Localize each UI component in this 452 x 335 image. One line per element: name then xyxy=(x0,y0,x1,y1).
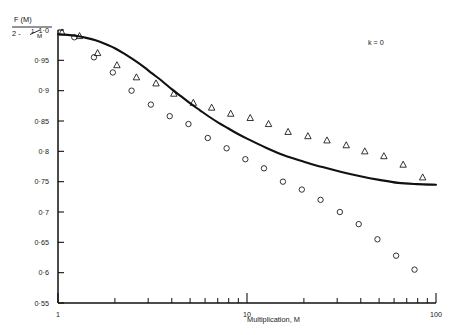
circle-marker xyxy=(318,197,323,202)
circle-marker xyxy=(167,113,172,118)
circle-marker xyxy=(280,179,285,184)
y-tick-label: 0·65 xyxy=(35,238,49,247)
triangle-marker xyxy=(381,153,387,159)
y-tick-label: 0·75 xyxy=(35,177,49,186)
x-tick-label: 100 xyxy=(430,310,442,319)
circle-marker xyxy=(224,146,229,151)
y-tick-label: 0·95 xyxy=(35,56,49,65)
chart-svg: 0·550·60·650·70·750·80·850·90·951·0 1101… xyxy=(0,0,452,335)
triangle-marker xyxy=(208,104,214,110)
x-axis-title: Multiplication, M xyxy=(247,315,300,324)
triangle-marker xyxy=(114,62,120,68)
triangle-marker xyxy=(362,148,368,154)
triangle-marker xyxy=(227,110,233,116)
circle-marker xyxy=(129,88,134,93)
y-axis-label-numerator: F (M) xyxy=(14,15,32,24)
theoretical-curve xyxy=(58,34,436,184)
circle-marker xyxy=(243,157,248,162)
y-axis-ticks xyxy=(58,30,64,303)
triangle-marker xyxy=(324,137,330,143)
circle-marker xyxy=(299,187,304,192)
circle-marker xyxy=(91,55,96,60)
circle-marker xyxy=(110,70,115,75)
x-tick-label: 1 xyxy=(56,310,60,319)
y-tick-label: 0·9 xyxy=(39,86,49,95)
circle-marker xyxy=(261,166,266,171)
y-axis-label: F (M) 2 - 1 M xyxy=(12,15,52,39)
circle-marker xyxy=(205,135,210,140)
triangle-marker xyxy=(247,114,253,120)
figure-container: 0·550·60·650·70·750·80·850·90·951·0 1101… xyxy=(0,0,452,335)
circle-marker xyxy=(356,221,361,226)
y-axis-label-denominator-frac-den: M xyxy=(37,32,42,39)
y-tick-label: 0·7 xyxy=(39,208,49,217)
x-axis-ticks xyxy=(58,293,436,303)
circle-marker xyxy=(393,253,398,258)
triangle-data-points xyxy=(59,29,426,180)
triangle-marker xyxy=(133,74,139,80)
triangle-marker xyxy=(400,161,406,167)
circle-marker xyxy=(337,209,342,214)
y-tick-label: 0·85 xyxy=(35,117,49,126)
triangle-marker xyxy=(343,142,349,148)
circle-marker xyxy=(148,102,153,107)
triangle-marker xyxy=(419,174,425,180)
y-axis-label-denominator-prefix: 2 - xyxy=(12,29,21,38)
circle-marker xyxy=(412,267,417,272)
y-axis-tick-labels: 0·550·60·650·70·750·80·850·90·951·0 xyxy=(35,26,49,308)
triangle-marker xyxy=(305,133,311,139)
triangle-marker xyxy=(285,128,291,134)
y-tick-label: 0·55 xyxy=(35,299,49,308)
circle-marker xyxy=(186,121,191,126)
k-annotation: k = 0 xyxy=(368,38,384,47)
circle-marker xyxy=(375,237,380,242)
y-tick-label: 0·6 xyxy=(39,268,49,277)
triangle-marker xyxy=(153,80,159,86)
y-tick-label: 0·8 xyxy=(39,147,49,156)
triangle-marker xyxy=(265,121,271,127)
